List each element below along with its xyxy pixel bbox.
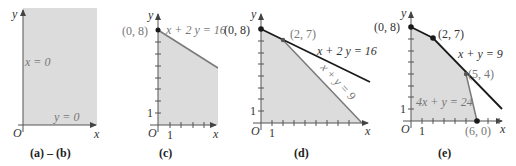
constraint-label-x-2y-16: x + 2 y = 16	[316, 44, 377, 58]
vertex-point-2-7	[430, 35, 436, 41]
x-axis-label: x	[499, 122, 506, 136]
point-label-0-8: (0, 8)	[224, 23, 250, 37]
y-axis-label: y	[147, 8, 154, 22]
origin-label: O	[401, 122, 410, 136]
vertex-point-0-8	[156, 28, 161, 33]
point-label-0-8: (0, 8)	[374, 20, 400, 34]
feasible-region-figure: y x O x = 0 y = 0 (a) – (b) y x	[0, 0, 516, 166]
caption-c: (c)	[159, 146, 172, 160]
x-axis-label: x	[212, 127, 219, 141]
x-tick-label-1: 1	[167, 128, 173, 142]
constraint-label-x-2y-16: x + 2 y = 16	[165, 23, 226, 37]
y-tick-label-1: 1	[250, 104, 256, 118]
constraint-label-x-y-9: x + y = 9	[457, 47, 503, 61]
origin-label: O	[251, 124, 260, 138]
caption-d: (d)	[294, 146, 309, 160]
vertex-point-0-8	[258, 26, 264, 32]
point-label-5-4: (5, 4)	[468, 67, 494, 81]
y-axis-label: y	[400, 6, 407, 20]
caption-e: (e)	[438, 146, 451, 160]
panel-d: y x O 1 1 (0, 8) (2, 7) x + 2 y = 16 x +…	[224, 7, 377, 160]
point-label-2-7: (2, 7)	[438, 27, 464, 41]
point-label-0-8: (0, 8)	[122, 24, 148, 38]
y-tick-label-1: 1	[400, 102, 406, 116]
constraint-label-4x-y-24: 4x + y = 24	[416, 95, 473, 109]
x-axis-label: x	[364, 124, 371, 138]
caption-ab: (a) – (b)	[30, 146, 71, 160]
vertex-point-0-8	[408, 24, 414, 30]
y-axis-label: y	[250, 7, 257, 21]
vertex-point-2-7	[281, 38, 285, 42]
point-label-2-7: (2, 7)	[290, 27, 316, 41]
panel-c: y x O 1 1 (0, 8) x + 2 y = 16 (c)	[122, 8, 226, 160]
point-label-6-0: (6, 0)	[465, 124, 491, 138]
y-axis-label: y	[11, 7, 18, 21]
x-axis-label: x	[93, 127, 100, 141]
origin-label: O	[13, 126, 22, 140]
x-tick-label-1: 1	[269, 126, 275, 140]
vertex-point-6-0	[474, 118, 480, 124]
origin-label: O	[148, 126, 157, 140]
constraint-label-x-eq-0: x = 0	[24, 55, 50, 69]
constraint-label-y-eq-0: y = 0	[53, 110, 79, 124]
y-tick-label-1: 1	[147, 106, 153, 120]
panel-e: y x O 1 1 (0, 8) (2, 7) (5, 4) (6, 0) x …	[374, 6, 506, 160]
x-tick-label-1: 1	[419, 124, 425, 138]
panel-ab: y x O x = 0 y = 0 (a) – (b)	[11, 7, 100, 160]
shaded-region	[158, 30, 218, 125]
